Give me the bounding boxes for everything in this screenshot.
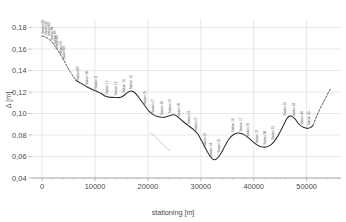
data-point-label: Station 11 xyxy=(94,75,98,89)
data-point-label: Station 19 xyxy=(168,99,172,113)
x-tick-label: 40000 xyxy=(243,182,264,191)
x-tick-label: 30000 xyxy=(191,182,212,191)
data-point-label: Station 20 xyxy=(177,103,181,117)
data-point-label: Station 09 xyxy=(76,66,80,80)
y-tick-label: 0,12 xyxy=(12,88,26,97)
x-tick-label: 10000 xyxy=(85,182,106,191)
data-point-label: Station 29 xyxy=(255,129,259,143)
data-point-label: Station 08 xyxy=(62,46,66,60)
data-point-label: Station 15 xyxy=(129,75,133,89)
data-point-label: Station 27 xyxy=(239,117,243,131)
data-point-label: Station 28 xyxy=(246,123,250,137)
chart-figure: Station 01Station 02Station 03Station 04… xyxy=(0,0,346,222)
data-point-label: Station 22 xyxy=(194,117,198,131)
data-point-label: Station 35 xyxy=(307,111,311,125)
data-point-label: Station 24 xyxy=(209,142,213,156)
x-tick-label: 20000 xyxy=(138,182,159,191)
data-point-label: Station 34 xyxy=(300,111,304,125)
y-tick-label: 0,10 xyxy=(12,109,26,118)
x-tick-label: 50000 xyxy=(296,182,317,191)
data-point-label: Station 17 xyxy=(151,99,155,113)
data-point-label: Station 13 xyxy=(114,81,118,95)
data-point-label: Station 33 xyxy=(292,102,296,116)
x-axis-title: stationing [m] xyxy=(152,208,195,217)
line-chart: Station 01Station 02Station 03Station 04… xyxy=(0,0,346,222)
data-point-label: Station 16 xyxy=(143,90,147,104)
data-point-label: Station 18 xyxy=(160,101,164,115)
data-point-label: Station 12 xyxy=(105,80,109,94)
data-point-label: Station 14 xyxy=(122,79,126,93)
data-point-label: Station 21 xyxy=(187,110,191,124)
y-tick-label: 0,14 xyxy=(12,66,26,75)
y-tick-label: 0,16 xyxy=(12,45,26,54)
data-point-label: Station 23 xyxy=(203,133,207,147)
y-axis-title: Δ [m] xyxy=(4,92,13,108)
y-tick-label: 0,08 xyxy=(12,131,26,140)
x-tick-label: 0 xyxy=(40,182,44,191)
data-point-label: Station 25 xyxy=(217,138,221,152)
y-tick-label: 0,04 xyxy=(12,174,26,183)
y-tick-label: 0,06 xyxy=(12,152,26,161)
data-point-label: Station 10 xyxy=(85,71,89,85)
data-point-label: Station 30 xyxy=(263,130,267,144)
data-point-label: Station 32 xyxy=(284,101,288,115)
y-tick-label: 0,18 xyxy=(12,23,26,32)
data-point-label: Station 26 xyxy=(231,118,235,132)
data-point-label: Station 31 xyxy=(271,126,275,140)
